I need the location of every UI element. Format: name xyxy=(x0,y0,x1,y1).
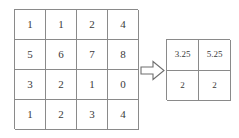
output-matrix: 3.25 5.25 2 2 xyxy=(166,39,230,100)
output-cell-r1c0: 2 xyxy=(167,71,199,102)
diagram-canvas: 1 1 2 4 5 6 7 8 3 2 1 0 1 2 3 4 3.25 5.2… xyxy=(0,0,239,138)
input-cell-r3c3: 4 xyxy=(108,100,139,130)
input-cell-r3c0: 1 xyxy=(15,100,46,130)
input-cell-r2c2: 1 xyxy=(77,70,108,100)
input-cell-r2c0: 3 xyxy=(15,70,46,100)
input-cell-r1c3: 8 xyxy=(108,40,139,70)
input-cell-r3c1: 2 xyxy=(46,100,77,130)
input-cell-r0c3: 4 xyxy=(108,10,139,40)
transform-arrow-icon xyxy=(140,60,165,81)
output-cell-r1c1: 2 xyxy=(199,71,231,102)
output-cell-r0c0: 3.25 xyxy=(167,40,199,71)
input-matrix: 1 1 2 4 5 6 7 8 3 2 1 0 1 2 3 4 xyxy=(14,9,138,129)
output-cell-r0c1: 5.25 xyxy=(199,40,231,71)
input-cell-r2c3: 0 xyxy=(108,70,139,100)
input-cell-r3c2: 3 xyxy=(77,100,108,130)
input-cell-r0c2: 2 xyxy=(77,10,108,40)
input-cell-r1c2: 7 xyxy=(77,40,108,70)
input-cell-r1c1: 6 xyxy=(46,40,77,70)
input-cell-r1c0: 5 xyxy=(15,40,46,70)
input-cell-r0c0: 1 xyxy=(15,10,46,40)
input-cell-r0c1: 1 xyxy=(46,10,77,40)
input-cell-r2c1: 2 xyxy=(46,70,77,100)
